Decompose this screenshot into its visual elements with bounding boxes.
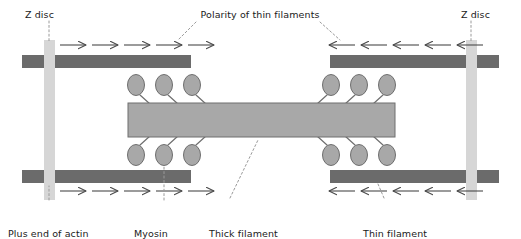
myosin-head-lower-left-2 [156, 145, 173, 166]
leader-thick-filament [230, 140, 258, 198]
label-polarity-of-thin-filaments: Polarity of thin filaments [200, 9, 320, 22]
myosin-head-lower-left-1 [128, 145, 145, 166]
sarcomere-diagram: Z disc Z disc Polarity of thin filaments… [0, 0, 521, 239]
label-plus-end-of-actin-filament: Plus end of actin filament on Z disc [8, 203, 95, 239]
leader-polarity-left [178, 22, 196, 40]
myosin-head-lower-right-1 [323, 145, 340, 166]
myosin-head-upper-left-1 [128, 75, 145, 96]
label-thin-filament-line-1: Thin filament [363, 228, 427, 239]
z-disc-right-bar [466, 40, 477, 200]
label-myosin-head: Myosin head [134, 203, 168, 239]
label-thick-filament-line-1: Thick filament [209, 228, 278, 239]
myosin-head-upper-right-1 [323, 75, 340, 96]
myosin-head-upper-right-3 [379, 75, 396, 96]
label-plus-end-line-1: Plus end of actin [8, 228, 95, 239]
thick-filament [128, 103, 395, 137]
myosin-head-upper-left-2 [156, 75, 173, 96]
z-disc-left-bar [44, 40, 55, 200]
myosin-head-upper-right-2 [351, 75, 368, 96]
label-myosin-head-line-1: Myosin [134, 228, 168, 239]
leader-polarity-right [320, 22, 340, 40]
label-thick-filament: Thick filament (myosin) [209, 203, 278, 239]
label-thin-filament: Thin filament (actin) [363, 203, 427, 239]
myosin-head-lower-left-3 [184, 145, 201, 166]
label-z-disc-right: Z disc [461, 9, 490, 22]
myosin-head-upper-left-3 [184, 75, 201, 96]
myosin-head-lower-right-3 [379, 145, 396, 166]
label-z-disc-left: Z disc [25, 9, 54, 22]
myosin-head-lower-right-2 [351, 145, 368, 166]
